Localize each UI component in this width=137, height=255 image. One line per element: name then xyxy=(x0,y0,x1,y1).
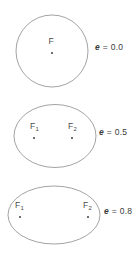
focus-label-f2-ellipse-08: F2 xyxy=(83,200,92,210)
eccentricity-figure: F e = 0.0 F1 F2 e = 0.5 F1 F2 e = 0.8 xyxy=(0,0,137,255)
conic-outline-circle xyxy=(16,15,88,87)
focus-label-f1-ellipse-05: F1 xyxy=(30,121,39,131)
eccentricity-equals-1: = xyxy=(100,42,111,52)
focus-label-f2-ellipse-05: F2 xyxy=(68,121,77,131)
eccentricity-label-1: e = 0.0 xyxy=(95,42,123,52)
conic-outline-ellipse-08 xyxy=(8,186,100,244)
focus-label-f1-ellipse-08: F1 xyxy=(15,200,24,210)
eccentricity-equals-2: = xyxy=(104,127,115,137)
conic-outline-ellipse-05 xyxy=(14,105,96,168)
focus-dot-f2-ellipse-08 xyxy=(87,216,89,218)
eccentricity-equals-3: = xyxy=(109,206,120,216)
focus-dot-f1-ellipse-08 xyxy=(19,216,21,218)
eccentricity-value-1: 0.0 xyxy=(111,42,124,52)
eccentricity-label-2: e = 0.5 xyxy=(99,127,127,137)
eccentricity-label-3: e = 0.8 xyxy=(104,206,132,216)
focus-label-f: F xyxy=(49,36,54,46)
eccentricity-value-2: 0.5 xyxy=(115,127,128,137)
eccentricity-value-3: 0.8 xyxy=(120,206,133,216)
